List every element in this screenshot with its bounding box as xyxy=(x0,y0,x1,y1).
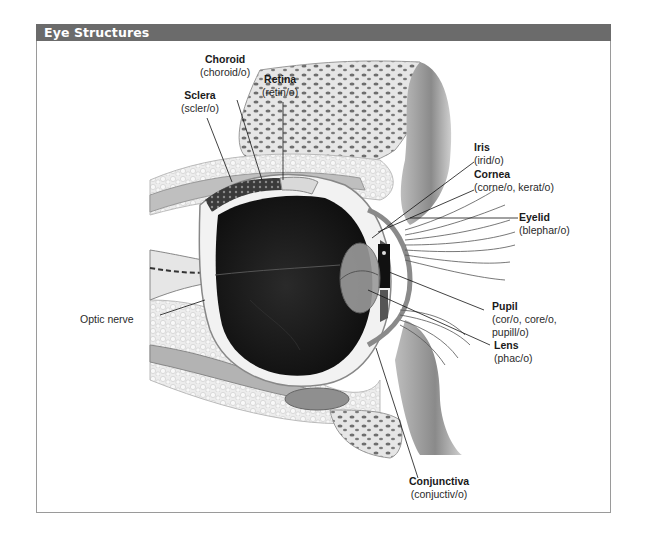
label-retina: Retina (retin/o) xyxy=(262,73,298,99)
label-cornea: Cornea (corne/o, kerat/o) xyxy=(474,168,554,194)
label-conjunctiva: Conjunctiva (conjuctiv/o) xyxy=(409,475,469,501)
lens-shape xyxy=(340,243,380,313)
label-sclera: Sclera (scler/o) xyxy=(181,89,219,115)
inferior-oblique-muscle xyxy=(285,388,349,410)
label-eyelid: Eyelid (blephar/o) xyxy=(519,211,570,237)
label-optic-nerve: Optic nerve xyxy=(80,313,134,326)
eye-cross-section-illustration xyxy=(0,0,647,541)
label-pupil: Pupil (cor/o, core/o, pupill/o) xyxy=(492,300,557,339)
lower-orbit-bone xyxy=(330,410,402,458)
label-choroid: Choroid (choroid/o) xyxy=(200,53,250,79)
label-iris: Iris (irid/o) xyxy=(474,141,504,167)
lower-eyelid-skin xyxy=(395,320,462,455)
label-lens: Lens (phac/o) xyxy=(494,339,533,365)
